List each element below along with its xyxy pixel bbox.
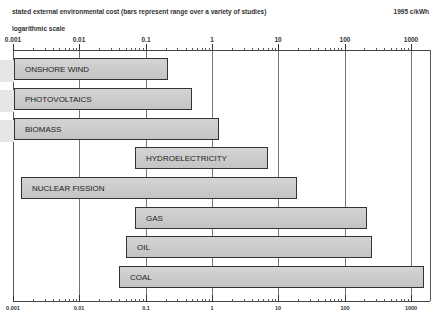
minor-tick [73,48,74,51]
minor-tick [341,48,342,51]
range-bar: PHOTOVOLTAICS [14,88,192,110]
minor-tick [244,299,245,302]
minor-tick [59,299,60,302]
major-tick [278,44,279,51]
minor-tick [143,299,144,302]
minor-tick [59,48,60,51]
minor-tick [197,299,198,302]
minor-tick [268,299,269,302]
range-bar: ONSHORE WIND [14,58,168,80]
minor-tick [404,48,405,51]
minor-tick [205,299,206,302]
bottom-tick-label: 0.01 [74,305,85,311]
minor-tick [53,299,54,302]
major-tick [146,295,147,302]
minor-tick [330,299,331,302]
minor-tick [364,299,365,302]
minor-tick [341,299,342,302]
scale-note: logarithmic scale [12,25,65,32]
minor-tick [334,299,335,302]
bar-shadow [0,120,14,142]
bar-label: BIOMASS [25,125,61,134]
minor-tick [177,299,178,302]
range-bar: OIL [126,236,372,258]
minor-tick [99,48,100,51]
minor-tick [338,299,339,302]
minor-tick [139,299,140,302]
minor-tick [275,299,276,302]
minor-tick [192,299,193,302]
minor-tick [272,299,273,302]
minor-tick [192,48,193,51]
minor-tick [209,48,210,51]
minor-tick [376,48,377,51]
minor-tick [126,299,127,302]
minor-tick [131,299,132,302]
bar-label: PHOTOVOLTAICS [25,95,92,104]
minor-tick [119,48,120,51]
bar-label: COAL [130,273,152,282]
minor-tick [76,299,77,302]
minor-tick [376,299,377,302]
major-tick [146,44,147,51]
major-tick [79,44,80,51]
minor-tick [298,48,299,51]
minor-tick [252,299,253,302]
minor-tick [76,48,77,51]
minor-tick [232,48,233,51]
minor-tick [69,48,70,51]
minor-tick [69,299,70,302]
top-tick-label: 10 [274,36,281,43]
gridline [212,50,213,301]
range-bar: COAL [119,266,424,288]
minor-tick [53,48,54,51]
bar-label: GAS [146,214,163,223]
minor-tick [232,299,233,302]
minor-tick [318,48,319,51]
minor-tick [401,48,402,51]
range-bar: HYDROELECTRICITY [135,147,268,169]
minor-tick [325,48,326,51]
major-tick [13,44,14,51]
gridline [345,50,346,301]
bottom-tick-label: 100 [340,305,349,311]
top-tick-label: 0.01 [73,36,86,43]
right-border [430,50,431,301]
minor-tick [384,48,385,51]
minor-tick [202,48,203,51]
major-tick [79,295,80,302]
minor-tick [177,48,178,51]
minor-tick [268,48,269,51]
minor-tick [310,48,311,51]
minor-tick [404,299,405,302]
major-tick [13,295,14,302]
minor-tick [65,48,66,51]
minor-tick [338,48,339,51]
minor-tick [408,299,409,302]
minor-tick [33,48,34,51]
minor-tick [186,48,187,51]
major-tick [411,44,412,51]
major-tick [278,295,279,302]
top-tick-label: 1 [210,36,214,43]
minor-tick [252,48,253,51]
minor-tick [263,299,264,302]
bottom-tick-label: 0.001 [6,305,20,311]
gridline [411,50,412,301]
minor-tick [45,299,46,302]
minor-tick [45,48,46,51]
bar-label: HYDROELECTRICITY [146,154,227,163]
top-tick-label: 100 [340,36,351,43]
bottom-tick-label: 0.1 [142,305,150,311]
top-tick-label: 0.1 [141,36,150,43]
minor-tick [143,48,144,51]
minor-tick [275,48,276,51]
minor-tick [119,299,120,302]
minor-tick [364,48,365,51]
minor-tick [408,48,409,51]
unit-label: 1995 c/kWh [394,8,429,15]
minor-tick [401,299,402,302]
major-tick [212,44,213,51]
bar-label: ONSHORE WIND [25,65,89,74]
minor-tick [111,48,112,51]
